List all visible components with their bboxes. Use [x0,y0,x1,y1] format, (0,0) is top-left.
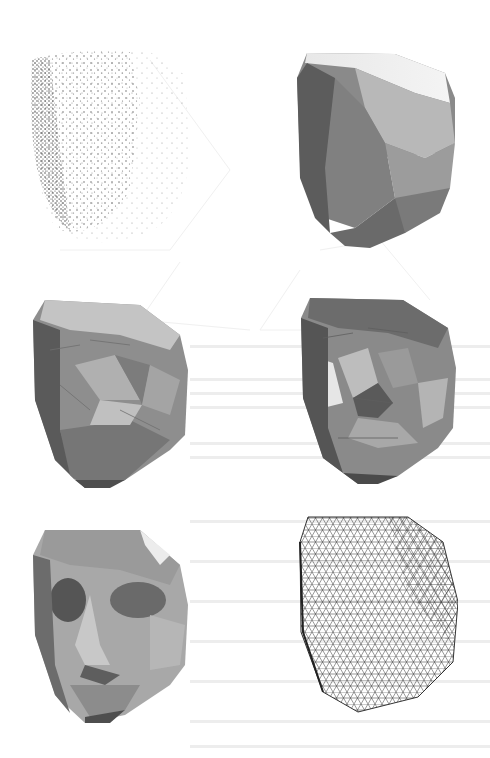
panel-final-mesh [30,525,190,725]
final-mesh-image [30,525,190,725]
panel-point-cloud [20,40,200,255]
panel-sculpted-partial [30,290,190,490]
sculpted-partial-image [30,290,190,490]
figure [0,0,490,758]
panel-wireframe [298,512,458,717]
convex-hull-image [295,48,460,248]
panel-sculpted-further [298,288,458,488]
wireframe-image [298,512,458,717]
point-cloud-image [20,40,200,255]
sculpted-further-image [298,288,458,488]
panel-convex-hull [295,48,460,248]
